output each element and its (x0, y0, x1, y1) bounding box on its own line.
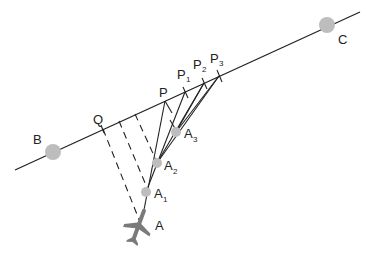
label-a1-sub: 1 (163, 195, 168, 204)
label-a2-sub: 2 (173, 167, 178, 176)
dashed-line-3 (135, 114, 156, 160)
point-c-marker (319, 17, 335, 33)
label-c: C (338, 32, 347, 47)
label-p3-sub: 3 (219, 59, 224, 68)
label-a3: A (184, 126, 193, 141)
point-b-marker (45, 144, 61, 160)
tick-p (165, 101, 172, 113)
dashed-line-q (103, 129, 140, 222)
airplane-icon (119, 203, 158, 248)
point-a2-marker (152, 158, 162, 168)
line-bc (15, 12, 360, 170)
flight-path-diagram: B C Q P P 1 P 2 P 3 A 3 A 2 A 1 A (0, 0, 370, 260)
label-p1-sub: 1 (186, 75, 191, 84)
label-p2: P (193, 57, 202, 72)
label-p: P (159, 85, 168, 100)
point-a1-marker (141, 187, 151, 197)
label-a1: A (154, 186, 163, 201)
label-a: A (155, 218, 164, 233)
label-b: B (33, 132, 42, 147)
label-p1: P (177, 67, 186, 82)
label-a2: A (164, 158, 173, 173)
label-a3-sub: 3 (193, 135, 198, 144)
point-a3-marker (171, 127, 181, 137)
label-p3: P (210, 51, 219, 66)
label-q: Q (93, 112, 103, 127)
label-p2-sub: 2 (202, 65, 207, 74)
